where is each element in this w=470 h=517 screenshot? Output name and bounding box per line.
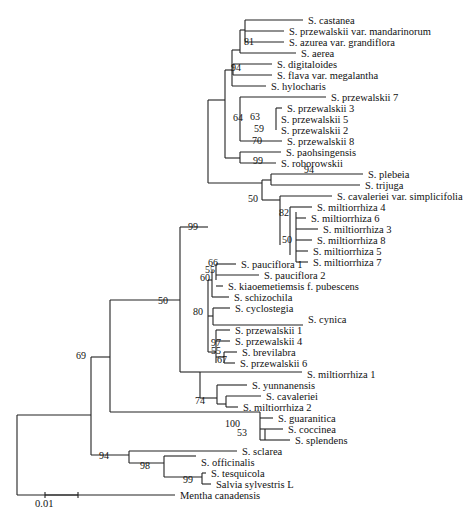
- taxon-label: S. przewalskii 4: [235, 336, 303, 347]
- bootstrap-value: 74: [195, 395, 205, 406]
- bootstrap-value: 50: [282, 234, 292, 245]
- taxon-label: S. cavaleriei var. simplicifolia: [337, 191, 463, 202]
- taxon-label: S. miltiorrhiza 8: [317, 235, 386, 246]
- taxon-label: S. hylocharis: [271, 81, 326, 92]
- taxon-label: S. azurea var. grandiflora: [289, 37, 395, 48]
- bootstrap-value: 98: [140, 460, 150, 471]
- bootstrap-value: 64: [233, 112, 243, 123]
- taxon-label: S. sclarea: [242, 446, 283, 457]
- taxon-label: S. przewalskii 7: [331, 92, 398, 103]
- taxon-label: S. miltiorrhiza 3: [323, 224, 392, 235]
- bootstrap-value: 67: [217, 354, 227, 365]
- taxon-label: S. guaranitica: [278, 413, 336, 424]
- taxon-label: S. castanea: [308, 15, 355, 26]
- taxon-label: S. coccinea: [288, 424, 336, 435]
- bootstrap-value: 81: [244, 36, 254, 47]
- taxon-label: S. przewalskii 5: [281, 114, 348, 125]
- bootstrap-value: 99: [188, 221, 198, 232]
- taxon-label: S. tesquicola: [211, 468, 265, 479]
- taxon-label: S. miltiorrhiza 5: [313, 246, 382, 257]
- bootstrap-value: 53: [237, 427, 247, 438]
- taxon-label: S. miltiorrhiza 1: [307, 369, 376, 380]
- bootstrap-value: 94: [304, 164, 314, 175]
- taxon-label: S. trijuga: [365, 180, 404, 191]
- bootstrap-value: 94: [231, 62, 241, 73]
- taxon-label: S. aerea: [301, 48, 335, 59]
- taxon-label: S. splendens: [295, 435, 348, 446]
- taxon-label: S. flava var. megalantha: [277, 70, 379, 81]
- taxon-label: Mentha canadensis: [180, 490, 260, 501]
- taxon-label: S. przewalskii 8: [287, 136, 354, 147]
- bootstrap-value: 60: [200, 272, 210, 283]
- bootstrap-value: 50: [158, 295, 168, 306]
- taxon-label: S. przewalskii 3: [287, 103, 354, 114]
- bootstrap-value: 50: [248, 193, 258, 204]
- taxon-label: S. przewalskii var. mandarinorum: [289, 26, 431, 37]
- taxon-label: S. cyclostegia: [235, 303, 294, 314]
- taxon-label: S. yunnanensis: [252, 380, 315, 391]
- taxon-label: S. przewalskii 6: [240, 358, 307, 369]
- taxon-label: S. cavaleriei: [266, 391, 318, 402]
- taxon-label: S. miltiorrhiza 6: [311, 213, 380, 224]
- taxon-label: S. pauciflora 2: [264, 270, 326, 281]
- taxon-label: S. miltiorrhiza 7: [313, 257, 382, 268]
- bootstrap-value: 63: [250, 111, 260, 122]
- bootstrap-value: 99: [183, 474, 193, 485]
- taxon-label: S. przewalskii 1: [235, 325, 302, 336]
- taxon-label: S. miltiorrhiza 2: [243, 402, 312, 413]
- taxon-label: S. plebeia: [368, 169, 410, 180]
- bootstrap-value: 99: [253, 155, 263, 166]
- taxon-label: S. kiaoemetiemsis f. pubescens: [228, 281, 359, 292]
- bootstrap-value: 69: [76, 350, 86, 361]
- taxon-label: S. paohsingensis: [286, 147, 356, 158]
- bootstrap-value: 94: [99, 450, 109, 461]
- taxon-label: S. cynica: [308, 314, 347, 325]
- taxon-label: Salvia sylvestris L: [216, 479, 294, 490]
- taxon-label: S. officinalis: [201, 457, 254, 468]
- taxon-labels: S. castaneaS. przewalskii var. mandarino…: [180, 15, 463, 501]
- phylogenetic-tree: S. castaneaS. przewalskii var. mandarino…: [0, 0, 470, 517]
- bootstrap-value: 59: [254, 123, 264, 134]
- taxon-label: S. przewalskii 2: [281, 125, 348, 136]
- bootstrap-value: 80: [193, 306, 203, 317]
- bootstrap-value: 82: [279, 207, 289, 218]
- taxon-label: S. brevilabra: [242, 347, 296, 358]
- taxon-label: S. pauciflora 1: [241, 259, 303, 270]
- taxon-label: S. schizochila: [234, 292, 293, 303]
- scale-bar-label: 0.01: [35, 498, 53, 509]
- taxon-label: S. digitaloides: [277, 59, 337, 70]
- taxon-label: S. miltiorrhiza 4: [317, 202, 386, 213]
- bootstrap-value: 70: [252, 135, 262, 146]
